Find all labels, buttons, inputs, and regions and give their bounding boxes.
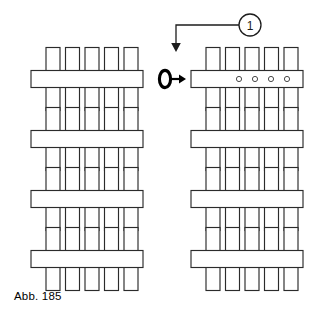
tooth-bottom-4 [265,86,279,111]
assembly-bar [191,191,303,208]
assembly-left-row-2 [31,108,143,171]
tooth-bottom-3 [245,266,259,291]
assembly-left-row-1 [31,48,143,111]
tooth-bottom-4 [265,146,279,171]
tooth-top-4 [265,108,279,133]
tooth-top-5 [284,168,298,193]
assembly-right-row-1 [191,48,303,111]
tooth-bottom-1 [206,146,220,171]
assembly-bar [191,131,303,148]
tooth-top-5 [124,228,138,253]
tooth-bottom-4 [105,266,119,291]
callout-group: 1 [171,14,261,52]
tooth-bottom-3 [85,146,99,171]
tooth-top-2 [226,48,240,73]
tooth-top-2 [226,108,240,133]
tooth-top-1 [206,108,220,133]
tooth-bottom-5 [284,146,298,171]
tooth-top-5 [284,48,298,73]
tooth-bottom-2 [226,86,240,111]
figure-container: 1 Abb. 185 [0,0,332,315]
tooth-bottom-1 [206,266,220,291]
tooth-bottom-2 [66,266,80,291]
tooth-bottom-5 [284,206,298,231]
tooth-top-5 [284,228,298,253]
technical-diagram: 1 [0,0,332,315]
tooth-top-1 [206,228,220,253]
tooth-bottom-2 [226,206,240,231]
transform-arrow-head-icon [179,74,186,83]
tooth-top-2 [226,168,240,193]
bar-hole-3 [268,76,273,81]
tooth-bottom-4 [105,206,119,231]
bar-hole-4 [284,76,289,81]
tooth-top-1 [206,168,220,193]
tooth-bottom-5 [284,266,298,291]
tooth-top-2 [66,108,80,133]
tooth-top-4 [265,168,279,193]
assembly-bar [31,251,143,268]
tooth-top-4 [105,108,119,133]
tooth-bottom-2 [66,146,80,171]
tooth-top-5 [124,48,138,73]
assembly-left-row-3 [31,168,143,231]
tooth-top-4 [265,228,279,253]
tooth-top-5 [124,108,138,133]
tooth-bottom-1 [46,146,60,171]
tooth-top-3 [245,228,259,253]
tooth-bottom-2 [66,86,80,111]
tooth-bottom-4 [265,266,279,291]
tooth-top-3 [85,108,99,133]
tooth-top-1 [46,168,60,193]
assembly-right-row-3 [191,168,303,231]
tooth-top-4 [265,48,279,73]
assembly-right-row-2 [191,108,303,171]
callout-arrow-head-icon [171,43,181,52]
assembly-bar [191,251,303,268]
tooth-bottom-5 [124,206,138,231]
bar-hole-2 [252,76,257,81]
assembly-left-row-4 [31,228,143,291]
tooth-top-2 [66,228,80,253]
tooth-bottom-3 [85,86,99,111]
tooth-bottom-4 [265,206,279,231]
tooth-bottom-1 [46,206,60,231]
bar-hole-1 [236,76,241,81]
tooth-top-2 [66,48,80,73]
transform-symbol [159,70,186,87]
assembly-bar [31,131,143,148]
tooth-top-5 [124,168,138,193]
tooth-bottom-2 [226,266,240,291]
tooth-top-1 [46,48,60,73]
tooth-bottom-1 [206,206,220,231]
tooth-bottom-5 [124,266,138,291]
tooth-top-4 [105,168,119,193]
tooth-bottom-3 [245,206,259,231]
tooth-top-1 [46,228,60,253]
tooth-top-2 [226,228,240,253]
tooth-top-4 [105,48,119,73]
tooth-bottom-3 [245,146,259,171]
tooth-top-1 [206,48,220,73]
assembly-bar [31,71,143,88]
tooth-bottom-4 [105,146,119,171]
tooth-bottom-5 [284,86,298,111]
figure-caption-wrap: Abb. 185 [14,286,62,304]
tooth-bottom-1 [206,86,220,111]
tooth-top-3 [245,168,259,193]
tooth-bottom-3 [85,266,99,291]
tooth-top-5 [284,108,298,133]
tooth-top-3 [245,108,259,133]
tooth-top-2 [66,168,80,193]
tooth-bottom-2 [66,206,80,231]
rotation-ellipse-icon [159,70,170,87]
tooth-bottom-5 [124,86,138,111]
assembly-bar [31,191,143,208]
tooth-top-4 [105,228,119,253]
tooth-bottom-1 [46,86,60,111]
tooth-top-3 [85,228,99,253]
tooth-top-3 [85,168,99,193]
tooth-bottom-2 [226,146,240,171]
tooth-top-3 [85,48,99,73]
tooth-bottom-5 [124,146,138,171]
